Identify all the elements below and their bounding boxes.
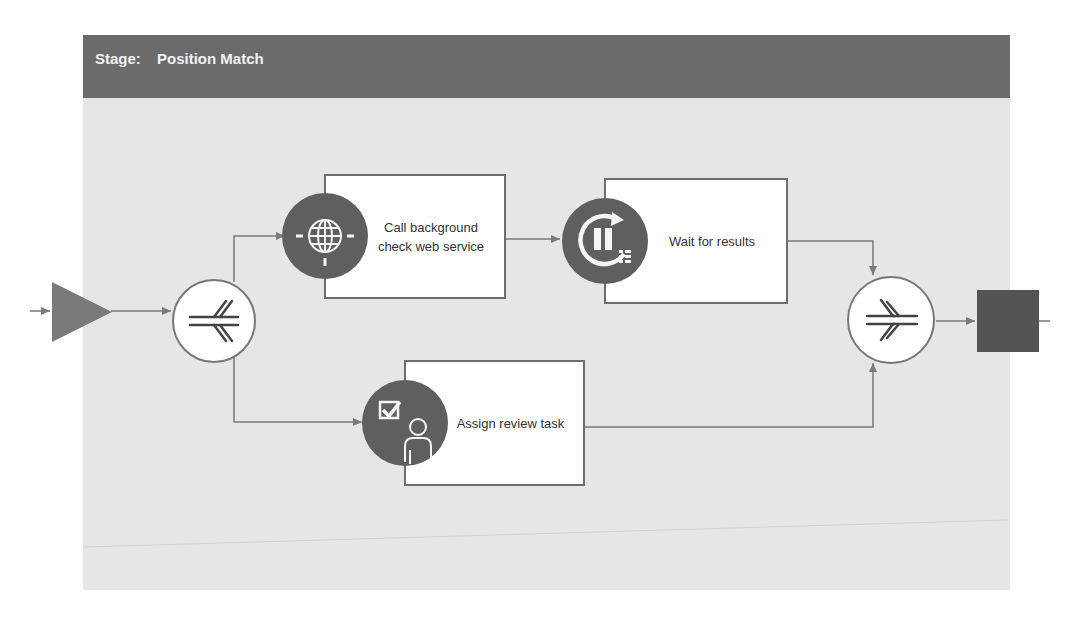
user-task-icon bbox=[362, 380, 448, 466]
end-event[interactable] bbox=[977, 290, 1039, 352]
globe-icon bbox=[282, 193, 368, 279]
parallel-join-icon bbox=[849, 278, 933, 362]
user-task-badge bbox=[362, 380, 448, 466]
flow-review-to-join bbox=[584, 363, 873, 427]
start-event[interactable] bbox=[50, 281, 114, 343]
flow-split-to-web bbox=[234, 236, 285, 282]
service-task-badge bbox=[282, 193, 368, 279]
lane-divider bbox=[84, 520, 1008, 547]
pause-loop-icon bbox=[562, 198, 648, 284]
parallel-split-icon bbox=[174, 281, 254, 361]
join-gateway[interactable] bbox=[847, 276, 935, 364]
split-gateway[interactable] bbox=[172, 279, 256, 363]
task-wait-label: Wait for results bbox=[631, 232, 761, 251]
flow-wait-to-join bbox=[787, 241, 873, 275]
wait-task-badge bbox=[562, 198, 648, 284]
